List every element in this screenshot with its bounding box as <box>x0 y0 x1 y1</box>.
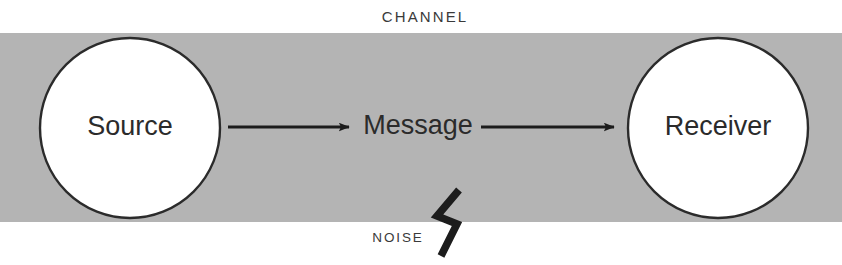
receiver-label: Receiver <box>665 111 772 141</box>
noise-label: NOISE <box>372 230 424 245</box>
channel-label: CHANNEL <box>382 8 468 25</box>
diagram-canvas: CHANNEL Source Receiver Message NOISE <box>0 0 842 265</box>
message-label: Message <box>363 110 473 140</box>
receiver-node[interactable]: Receiver <box>628 38 808 218</box>
source-node[interactable]: Source <box>40 38 220 218</box>
communication-model-diagram: CHANNEL Source Receiver Message NOISE <box>0 0 842 265</box>
source-label: Source <box>87 111 173 141</box>
